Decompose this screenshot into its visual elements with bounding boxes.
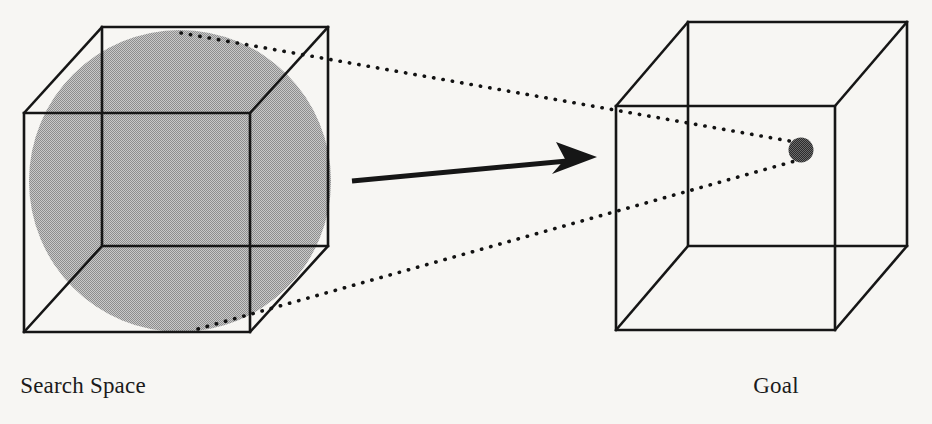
arrow-head-icon [552, 142, 597, 174]
goal-cube-edge-bottom-left [616, 246, 688, 330]
goal-cube-edge-bottom-right [835, 246, 907, 330]
goal-point [789, 138, 814, 163]
arrow-shaft [352, 160, 578, 181]
goal-cube-edge-top-right [835, 22, 907, 106]
diagram-canvas: Search Space Goal [0, 0, 932, 424]
transition-arrow [352, 142, 597, 181]
goal-cube-back-face [688, 22, 907, 246]
goal-cube-edge-top-left [616, 22, 688, 106]
goal-group [616, 22, 907, 330]
search-space-goal-diagram: Search Space Goal [0, 0, 932, 424]
goal-label: Goal [753, 373, 799, 398]
search-space-group [24, 27, 331, 332]
search-space-label: Search Space [20, 373, 146, 398]
